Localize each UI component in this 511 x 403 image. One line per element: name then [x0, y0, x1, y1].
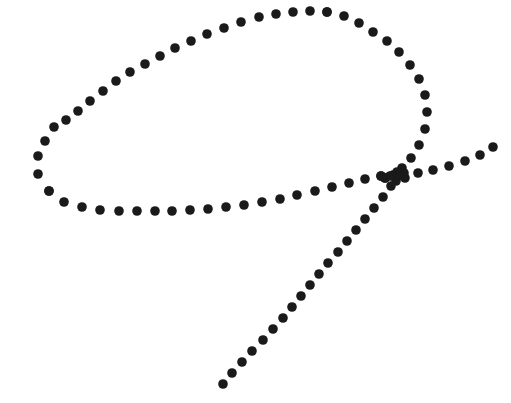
sketch-dot [420, 90, 430, 100]
sketch-dot [428, 165, 438, 175]
sketch-dot [271, 9, 281, 19]
sketch-dot [44, 186, 54, 196]
sketch-dot [305, 280, 315, 290]
sketch-dot [323, 258, 333, 268]
sketch-dot [292, 190, 302, 200]
sketch-dot [239, 200, 249, 210]
sketch-dot [314, 269, 324, 279]
sketch-dot [40, 136, 50, 146]
sketch-dot [227, 368, 237, 378]
sketch-dot [111, 76, 121, 86]
sketch-dot [237, 357, 247, 367]
sketch-dot [59, 197, 69, 207]
sketch-dot [322, 7, 332, 17]
sketch-dot [398, 171, 408, 181]
sketch-dot [333, 247, 343, 257]
sketch-dot [77, 202, 87, 212]
sketch-dot [296, 291, 306, 301]
sketch-dot [170, 43, 180, 53]
sketch-dot [288, 7, 298, 17]
sketch-dot [185, 205, 195, 215]
sketch-dot [218, 379, 228, 389]
sketch-dot [61, 115, 71, 125]
sketch-dot [394, 47, 404, 57]
sketch-dot [360, 214, 370, 224]
sketch-dot [422, 107, 432, 117]
canvas-background [0, 0, 511, 403]
sketch-dot [247, 346, 257, 356]
sketch-dot [327, 182, 337, 192]
sketch-dot [257, 197, 267, 207]
sketch-dot [95, 205, 105, 215]
sketch-dot [186, 36, 196, 46]
sketch-dot [254, 12, 264, 22]
sketch-dot [385, 171, 395, 181]
sketch-dot [114, 206, 124, 216]
sketch-dot [369, 203, 379, 213]
sketch-dot [258, 335, 268, 345]
sketch-dot [203, 204, 213, 214]
sketch-dot [278, 313, 288, 323]
sketch-dot [287, 302, 297, 312]
sketch-dot [202, 29, 212, 39]
sketch-dot [414, 140, 424, 150]
sketch-dot [413, 168, 423, 178]
sketch-dot [33, 151, 43, 161]
sketch-dot [49, 122, 59, 132]
sketch-dot [236, 17, 246, 27]
sketch-dot [360, 174, 370, 184]
sketch-dot [33, 169, 43, 179]
sketch-dot [219, 23, 229, 33]
sketch-dot [414, 74, 424, 84]
sketch-dot [85, 96, 95, 106]
sketch-canvas [0, 0, 511, 403]
sketch-dot [339, 11, 349, 21]
sketch-dot [406, 153, 416, 163]
sketch-dot [125, 67, 135, 77]
sketch-dot [275, 194, 285, 204]
sketch-dot [420, 124, 430, 134]
sketch-dot [354, 18, 364, 28]
sketch-dot [150, 206, 160, 216]
sketch-dot [344, 178, 354, 188]
sketch-dot [368, 27, 378, 37]
sketch-dot [167, 206, 177, 216]
sketch-dot [73, 106, 83, 116]
sketch-dot [132, 206, 142, 216]
sketch-dot [386, 181, 396, 191]
sketch-dot [342, 236, 352, 246]
sketch-dot [405, 60, 415, 70]
sketch-dot [310, 186, 320, 196]
sketch-dot [221, 202, 231, 212]
sketch-dot [444, 161, 454, 171]
sketch-dot [155, 51, 165, 61]
sketch-dot [382, 36, 392, 46]
sketch-dot [98, 86, 108, 96]
sketch-dot [475, 150, 485, 160]
sketch-dot [268, 324, 278, 334]
sketch-dot [351, 225, 361, 235]
sketch-dot [378, 192, 388, 202]
sketch-dot [460, 156, 470, 166]
sketch-dot [140, 59, 150, 69]
sketch-dot [305, 6, 315, 16]
dotted-sketch-svg [0, 0, 511, 403]
sketch-dot [488, 142, 498, 152]
